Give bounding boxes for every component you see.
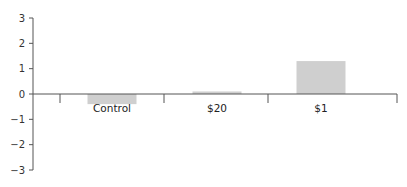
y-tick-label: 0 — [19, 89, 25, 100]
y-tick-label: 3 — [19, 13, 25, 24]
y-axis: 3210−1−2−3 — [10, 13, 33, 176]
category-labels: Control$20$1 — [93, 102, 328, 114]
category-label: Control — [93, 102, 131, 114]
y-tick-label: 2 — [19, 38, 25, 49]
category-label: $20 — [207, 102, 227, 114]
y-tick-label: −3 — [10, 165, 25, 176]
category-label: $1 — [314, 102, 327, 114]
y-tick-label: −1 — [10, 114, 25, 125]
bar-chart: 3210−1−2−3 Control$20$1 — [0, 0, 407, 187]
y-tick-label: 1 — [19, 63, 25, 74]
y-tick-label: −2 — [10, 139, 25, 150]
bars — [88, 61, 346, 104]
bar-1 — [297, 61, 346, 94]
